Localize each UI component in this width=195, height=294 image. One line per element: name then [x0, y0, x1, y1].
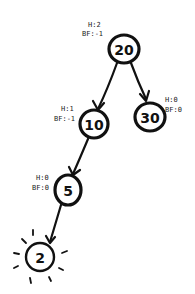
node-value: 30	[140, 110, 160, 126]
edge-20-10	[98, 63, 117, 109]
balance-factor-label: BF:-1	[82, 30, 103, 38]
height-label: H:0	[36, 174, 49, 182]
node-value: 20	[114, 42, 134, 58]
tree-node-2: 2	[14, 230, 67, 283]
tree-node-10: 10 H:1 BF:-1	[54, 105, 108, 138]
node-value: 10	[84, 117, 104, 133]
balance-factor-label: BF:-1	[54, 115, 75, 123]
height-label: H:0	[165, 96, 178, 104]
tree-node-30: 30 H:0 BF:0	[135, 96, 182, 131]
edge-10-5	[73, 139, 88, 174]
height-label: H:1	[61, 105, 74, 113]
balance-factor-label: BF:0	[32, 184, 49, 192]
edge-20-30	[131, 63, 146, 99]
avl-tree-diagram: 20 H:2 BF:-1 10 H:1 BF:-1 30 H:0 BF:0 5 …	[0, 0, 195, 294]
edges	[46, 63, 149, 243]
tree-node-5: 5 H:0 BF:0	[32, 174, 81, 205]
node-value: 2	[35, 250, 45, 266]
height-label: H:2	[88, 21, 101, 29]
node-value: 5	[63, 183, 73, 199]
tree-node-20: 20 H:2 BF:-1	[82, 21, 139, 63]
balance-factor-label: BF:0	[165, 106, 182, 114]
